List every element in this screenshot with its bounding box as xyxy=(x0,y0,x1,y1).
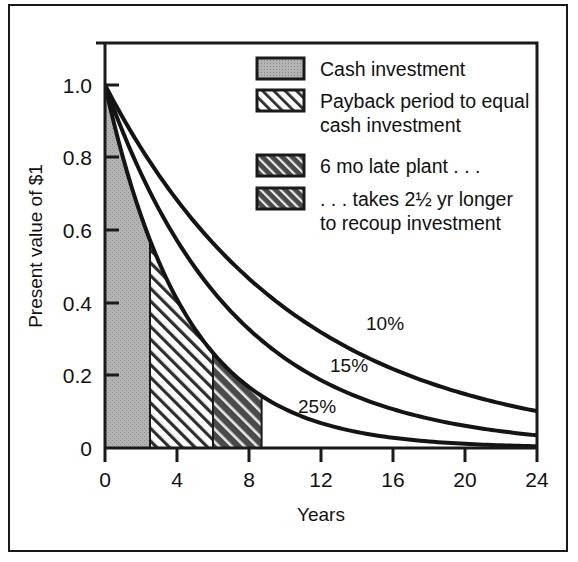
region-late-plant xyxy=(213,353,262,448)
legend-label-recoup-investment-line1: . . . takes 2½ yr longer xyxy=(320,188,513,210)
legend-label-late-plant: 6 mo late plant . . . xyxy=(320,155,480,177)
y-tick-label: 0.8 xyxy=(63,146,92,169)
y-tick-label: 0.6 xyxy=(63,219,92,242)
x-tick-label: 12 xyxy=(309,468,332,491)
y-tick-label: 0 xyxy=(80,437,92,460)
legend: Cash investment Payback period to equal … xyxy=(257,58,529,234)
y-tick-labels: 1.0 0.8 0.6 0.4 0.2 0 xyxy=(63,74,93,460)
legend-swatch-recoup-investment xyxy=(257,188,304,209)
legend-swatch-late-plant xyxy=(257,155,304,176)
x-tick-label: 0 xyxy=(99,468,111,491)
y-tick-label: 0.2 xyxy=(63,364,92,387)
chart-canvas: 1.0 0.8 0.6 0.4 0.2 0 0 4 8 12 16 20 24 … xyxy=(0,0,578,562)
x-axis-title: Years xyxy=(297,504,345,525)
curve-annotation-10: 10% xyxy=(366,313,404,334)
y-tick-label: 1.0 xyxy=(63,74,92,97)
x-tick-label: 20 xyxy=(453,468,476,491)
curve-annotation-15: 15% xyxy=(330,355,368,376)
legend-label-cash-investment: Cash investment xyxy=(320,58,466,80)
legend-label-payback-period-line2: cash investment xyxy=(320,114,461,136)
y-tick-label: 0.4 xyxy=(63,292,93,315)
x-tick-labels: 0 4 8 12 16 20 24 xyxy=(99,468,549,491)
y-axis-title: Present value of $1 xyxy=(25,164,46,328)
legend-label-recoup-investment-line2: to recoup investment xyxy=(320,212,502,234)
x-ticks xyxy=(105,448,537,462)
x-tick-label: 8 xyxy=(243,468,255,491)
legend-swatch-payback-period xyxy=(257,90,304,111)
x-tick-label: 16 xyxy=(381,468,404,491)
curve-annotation-25: 25% xyxy=(298,396,336,417)
legend-label-payback-period-line1: Payback period to equal xyxy=(320,90,529,112)
legend-swatch-cash-investment xyxy=(257,58,304,79)
figure-container: 1.0 0.8 0.6 0.4 0.2 0 0 4 8 12 16 20 24 … xyxy=(0,0,578,562)
x-tick-label: 4 xyxy=(171,468,183,491)
x-tick-label: 24 xyxy=(525,468,549,491)
